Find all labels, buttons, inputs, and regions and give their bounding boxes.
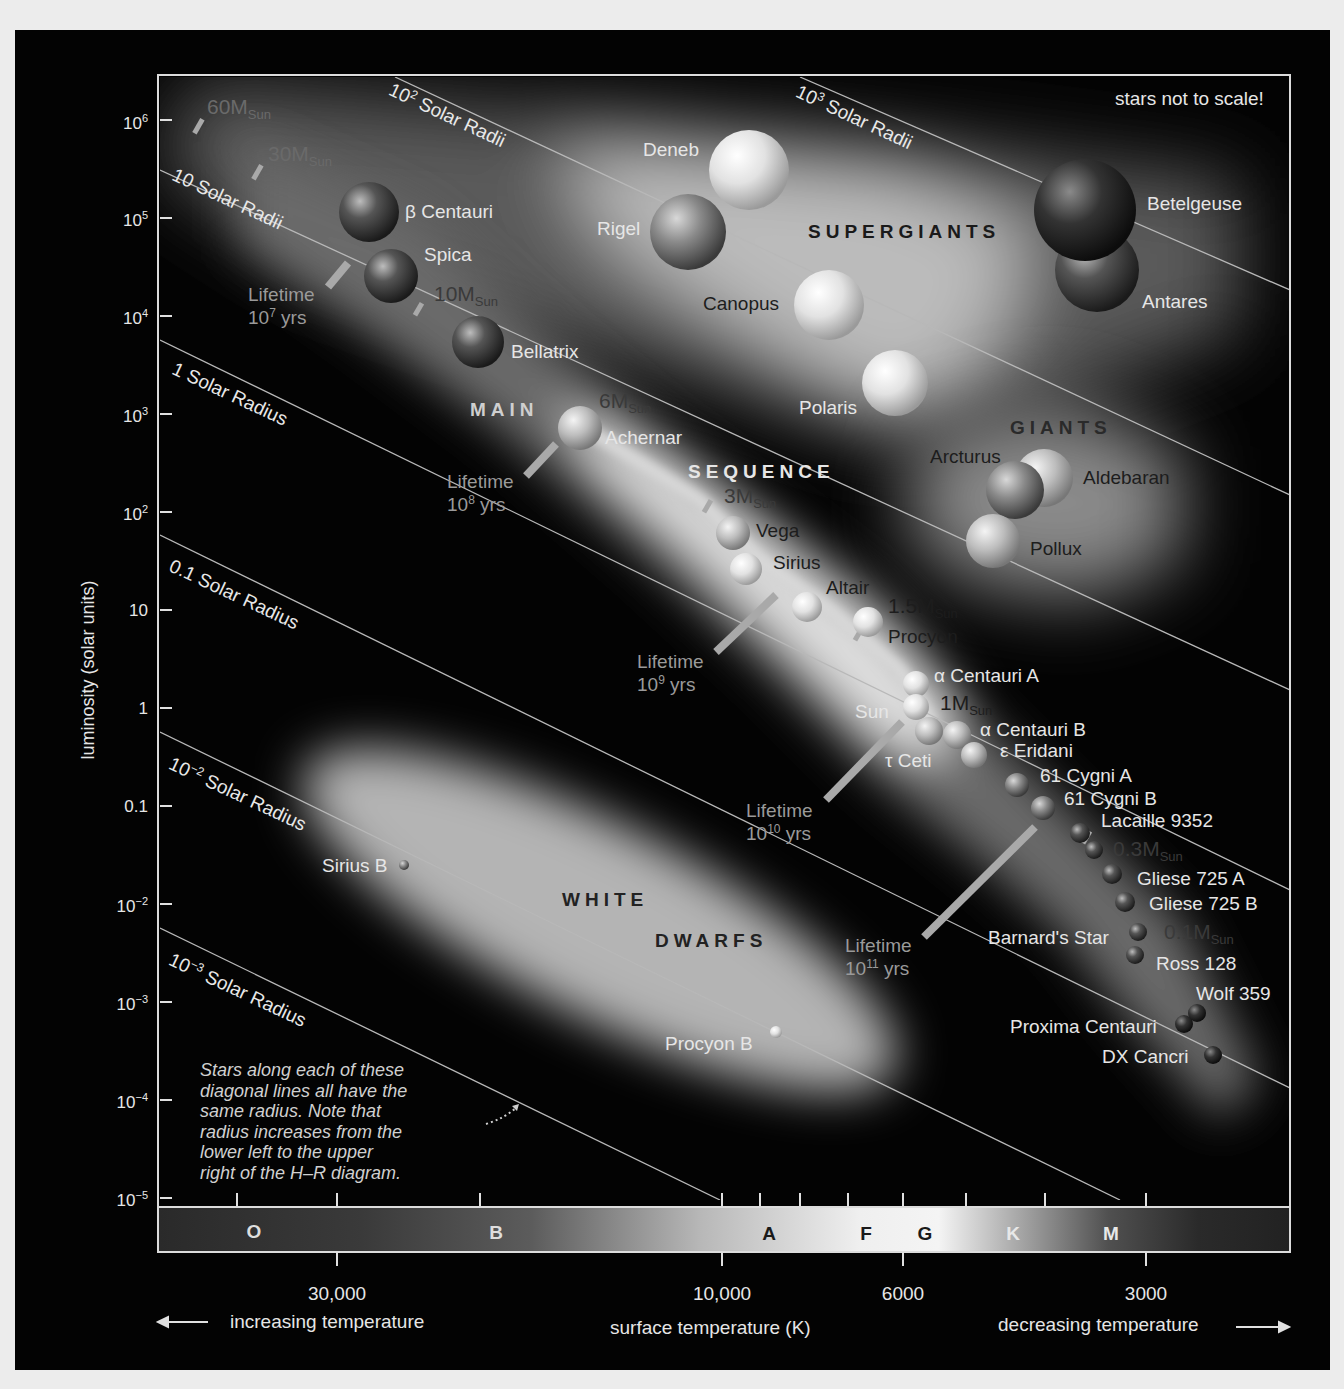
region-white: WHITE: [562, 889, 648, 911]
star-label-sirius-b: Sirius B: [322, 856, 387, 875]
spectral-O: O: [247, 1221, 262, 1243]
lifetime-1e9: Lifetime109 yrs: [637, 652, 704, 694]
y-tick-1e-2: 10−2: [88, 895, 148, 917]
star-label-dx-cancri: DX Cancri: [1102, 1047, 1189, 1066]
mass-30: 30MSun: [268, 143, 332, 168]
star-label-rigel: Rigel: [597, 219, 640, 238]
lifetime-1e8: Lifetime108 yrs: [447, 472, 514, 514]
spectral-M: M: [1103, 1223, 1119, 1245]
note-line: lower left to the upper: [200, 1142, 460, 1163]
mass-60: 60MSun: [207, 96, 271, 121]
star-label-61-cygni-b: 61 Cygni B: [1064, 789, 1157, 808]
star-label-sun: Sun: [855, 702, 889, 721]
mass-0.3: 0.3MSun: [1113, 838, 1183, 863]
x-right-hint: decreasing temperature: [998, 1315, 1199, 1334]
spectral-G: G: [918, 1223, 933, 1245]
star-label-polaris: Polaris: [799, 398, 857, 417]
star-label-gliese-725-b: Gliese 725 B: [1149, 894, 1258, 913]
star-label-procyon-b: Procyon B: [665, 1034, 753, 1053]
star-label-gliese-725-a: Gliese 725 A: [1137, 869, 1245, 888]
star-label-bellatrix: Bellatrix: [511, 342, 579, 361]
y-axis-ticks: [160, 120, 172, 1198]
region-dwarfs: DWARFS: [655, 930, 767, 952]
star-label-alpha-centauri-b: α Centauri B: [980, 720, 1086, 739]
note-line: Stars along each of these: [200, 1060, 460, 1081]
not-to-scale-note: stars not to scale!: [1115, 89, 1264, 108]
star-label-sirius: Sirius: [773, 553, 821, 572]
star-label-epsilon-eridani: ε Eridani: [1000, 741, 1073, 760]
star-label-wolf-359: Wolf 359: [1196, 984, 1271, 1003]
star-label-spica: Spica: [424, 245, 472, 264]
spectral-A: A: [762, 1223, 776, 1245]
star-label-beta-centauri: β Centauri: [405, 202, 493, 221]
y-tick-1e4: 104: [88, 307, 148, 329]
y-tick-1e-4: 10−4: [88, 1091, 148, 1113]
y-tick-1e2: 102: [88, 503, 148, 525]
star-label-aldebaran: Aldebaran: [1083, 468, 1170, 487]
mass-1.5: 1.5MSun: [888, 595, 958, 620]
spectral-B: B: [489, 1222, 503, 1244]
star-label-achernar: Achernar: [605, 428, 682, 447]
star-label-61-cygni-a: 61 Cygni A: [1040, 766, 1132, 785]
star-label-canopus: Canopus: [703, 294, 779, 313]
star-label-ross-128: Ross 128: [1156, 954, 1236, 973]
star-label-antares: Antares: [1142, 292, 1207, 311]
note-line: radius increases from the: [200, 1122, 460, 1143]
radius-explanation-note: Stars along each of these diagonal lines…: [200, 1060, 460, 1183]
lifetime-1e7: Lifetime107 yrs: [248, 285, 315, 327]
star-label-barnards-star: Barnard's Star: [988, 928, 1109, 947]
x-tick-3000: 3000: [1125, 1283, 1167, 1305]
mass-0.1: 0.1MSun: [1164, 921, 1234, 946]
mass-3: 3MSun: [724, 485, 776, 510]
star-label-altair: Altair: [826, 578, 869, 597]
lifetime-1e10: Lifetime1010 yrs: [746, 801, 813, 843]
star-label-arcturus: Arcturus: [930, 447, 1001, 466]
y-axis-label: luminosity (solar units): [78, 580, 99, 759]
region-giants: GIANTS: [1010, 417, 1112, 439]
spectral-class-bar: [159, 1208, 1289, 1251]
y-tick-1e5: 105: [88, 209, 148, 231]
star-label-vega: Vega: [756, 521, 799, 540]
y-tick-0.1: 0.1: [88, 797, 148, 817]
x-axis-label: surface temperature (K): [610, 1318, 811, 1337]
star-label-betelgeuse: Betelgeuse: [1147, 194, 1242, 213]
y-tick-1e6: 106: [88, 112, 148, 134]
spectral-K: K: [1006, 1223, 1020, 1245]
star-label-proxima-centauri: Proxima Centauri: [1010, 1017, 1157, 1036]
star-label-lacaille-9352: Lacaille 9352: [1101, 811, 1213, 830]
mass-10: 10MSun: [434, 283, 498, 308]
note-line: same radius. Note that: [200, 1101, 460, 1122]
x-tick-6000: 6000: [882, 1283, 924, 1305]
lifetime-1e11: Lifetime1011 yrs: [845, 936, 912, 978]
star-label-alpha-centauri-a: α Centauri A: [934, 666, 1039, 685]
x-tick-10000: 10,000: [693, 1283, 751, 1305]
mass-1: 1MSun: [940, 692, 992, 717]
star-label-pollux: Pollux: [1030, 539, 1082, 558]
x-left-hint: increasing temperature: [230, 1312, 424, 1331]
note-line: right of the H–R diagram.: [200, 1163, 460, 1184]
region-sequence: SEQUENCE: [688, 461, 835, 483]
region-supergiants: SUPERGIANTS: [808, 221, 1000, 243]
region-main: MAIN: [470, 399, 539, 421]
y-tick-1e3: 103: [88, 405, 148, 427]
star-label-procyon: Procyon: [888, 627, 958, 646]
y-tick-1e-3: 10−3: [88, 993, 148, 1015]
note-line: diagonal lines all have the: [200, 1081, 460, 1102]
y-tick-1e-5: 10−5: [88, 1189, 148, 1211]
star-label-tau-ceti: τ Ceti: [885, 751, 932, 770]
mass-6: 6MSun: [599, 390, 651, 415]
spectral-F: F: [860, 1223, 872, 1245]
x-tick-30000: 30,000: [308, 1283, 366, 1305]
star-label-deneb: Deneb: [643, 140, 699, 159]
